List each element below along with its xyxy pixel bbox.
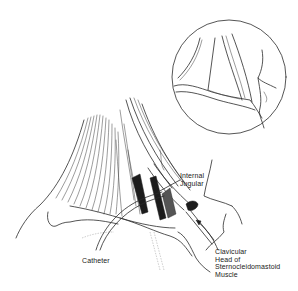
muscle-fibers	[56, 115, 119, 214]
label-clavicular-head: Clavicular Head of Sternocleidomastoid M…	[215, 248, 280, 278]
neck-anatomy	[16, 98, 242, 272]
sternocleidomastoid	[116, 98, 190, 216]
inset-detail	[172, 20, 286, 134]
label-internal-jugular: Internal Jugular	[180, 172, 204, 187]
label-catheter: Catheter	[82, 257, 110, 265]
